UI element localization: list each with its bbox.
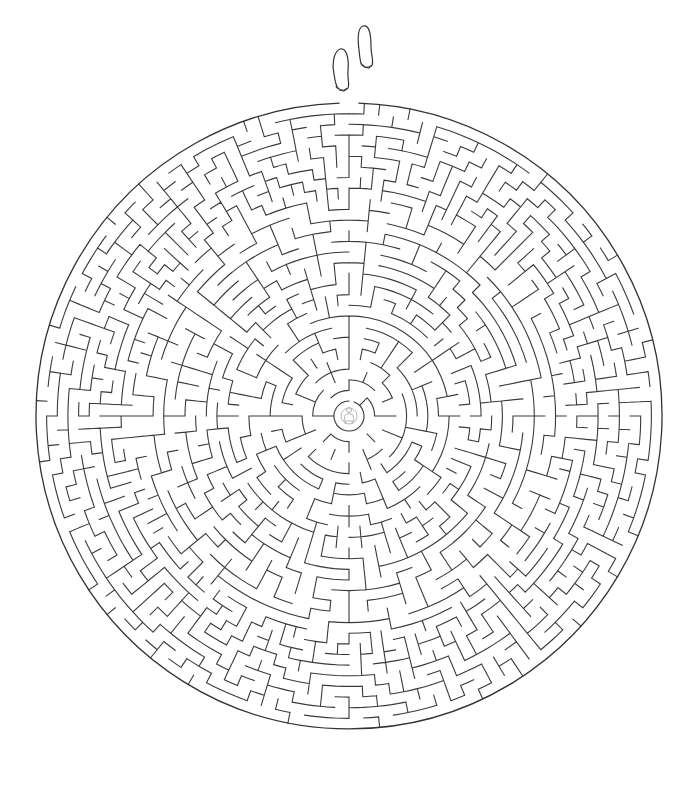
footprints-icon — [333, 26, 373, 91]
circular-maze — [0, 0, 698, 794]
person-figure-icon — [341, 408, 357, 425]
maze-worksheet — [0, 0, 698, 794]
